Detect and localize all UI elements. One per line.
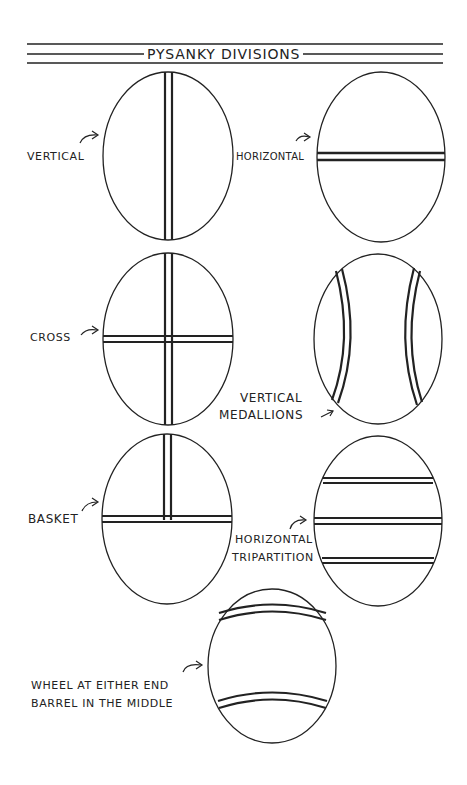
label-wheel-line2: BARREL IN THE MIDDLE (31, 697, 173, 711)
arrow-horizontal (296, 133, 310, 141)
egg-horizontal-tripartition (314, 436, 442, 606)
label-horizontal: HORIZONTAL (236, 150, 304, 164)
label-wheel-line1: WHEEL AT EITHER END (31, 679, 169, 693)
egg-horizontal (317, 72, 445, 242)
arrow-tripartition (290, 516, 306, 529)
label-vertical: VERTICAL (27, 150, 84, 164)
label-tripartition-line2: TRIPARTITION (232, 551, 314, 565)
egg-basket (102, 434, 232, 604)
egg-vertical (103, 72, 233, 240)
arrow-cross (81, 326, 98, 335)
label-cross: CROSS (30, 331, 71, 345)
egg-cross (103, 253, 233, 425)
egg-wheel-barrel (208, 589, 336, 743)
arrow-basket (82, 498, 98, 511)
arrow-medallions (321, 410, 333, 417)
label-medallions-line2: MEDALLIONS (219, 408, 303, 422)
egg-vertical-medallions (314, 254, 442, 424)
arrow-vertical (80, 131, 98, 143)
label-tripartition-line1: HORIZONTAL (235, 533, 313, 547)
label-medallions-line1: VERTICAL (240, 391, 302, 405)
page-title: PYSANKY DIVISIONS (144, 46, 303, 62)
arrow-wheel-barrel (183, 661, 202, 672)
diagram-canvas (0, 0, 467, 785)
label-basket: BASKET (28, 512, 78, 526)
